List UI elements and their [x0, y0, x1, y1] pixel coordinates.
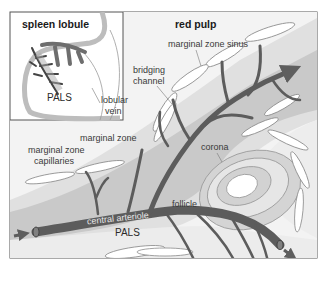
- sinus: [195, 261, 235, 269]
- inset-pals-label: PALS: [47, 92, 72, 103]
- inset-title: spleen lobule: [22, 18, 89, 30]
- lobular-vein-label-line2: vein: [105, 106, 122, 116]
- spleen-diagram: spleen lobule PALS lobular vein red pulp…: [0, 0, 325, 282]
- sinus: [137, 248, 193, 256]
- arteriole-exit-end: [277, 241, 283, 250]
- arteriole-cut-end: [33, 227, 39, 237]
- inflow-arrow-icon: [14, 234, 24, 236]
- pals-label: PALS: [115, 227, 140, 238]
- marginal-zone-sinus-label: marginal zone sinus: [168, 39, 249, 49]
- marginal-zone-capillaries-label-line2: capillaries: [34, 156, 75, 166]
- marginal-zone-label: marginal zone: [80, 133, 137, 143]
- corona-label: corona: [201, 142, 229, 152]
- bridging-channel-label-line2: channel: [133, 76, 165, 86]
- follicle-label: follicle: [172, 199, 197, 209]
- red-pulp-title: red pulp: [175, 18, 216, 30]
- marginal-zone-capillaries-label-line1: marginal zone: [28, 145, 85, 155]
- lobular-vein-label-line1: lobular: [101, 95, 128, 105]
- bridging-channel-label-line1: bridging: [133, 65, 165, 75]
